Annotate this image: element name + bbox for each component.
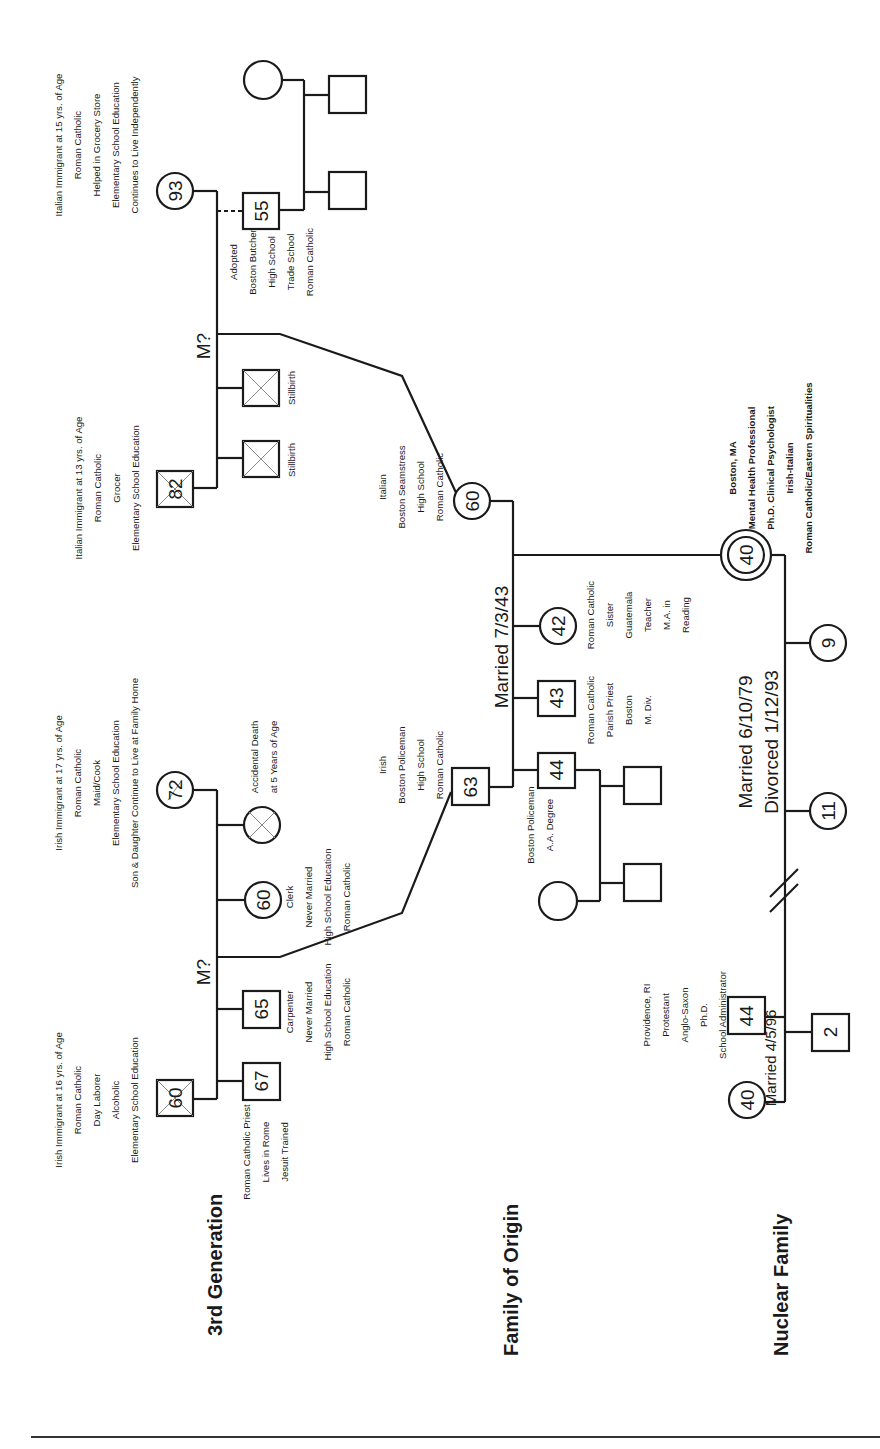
svg-text:Roman Catholic: Roman Catholic bbox=[341, 978, 352, 1046]
svg-text:Reading: Reading bbox=[680, 597, 691, 633]
uncle-priest-note: Roman Catholic Priest bbox=[241, 1104, 252, 1200]
svg-text:Roman Catholic: Roman Catholic bbox=[92, 454, 103, 522]
grandmother-irish-age: 72 bbox=[165, 779, 186, 800]
svg-text:Parish Priest: Parish Priest bbox=[604, 682, 615, 737]
svg-text:Day Laborer: Day Laborer bbox=[91, 1073, 102, 1127]
grandfather-irish-age: 60 bbox=[165, 1087, 186, 1108]
ex-husband-note: Providence, RI bbox=[641, 984, 652, 1047]
svg-text:Boston Seamstress: Boston Seamstress bbox=[396, 445, 407, 528]
svg-text:Roman Catholic: Roman Catholic bbox=[72, 749, 83, 817]
section-label-family-of-origin: Family of Origin bbox=[500, 1204, 522, 1356]
svg-text:Elementary School Education: Elementary School Education bbox=[110, 82, 121, 208]
client-note: Boston, MA bbox=[727, 441, 738, 494]
svg-text:Elementary School Education: Elementary School Education bbox=[129, 1037, 140, 1163]
svg-text:Guatemala: Guatemala bbox=[623, 591, 634, 639]
child-11-age: 11 bbox=[818, 801, 839, 821]
svg-text:M. Div.: M. Div. bbox=[642, 695, 653, 724]
svg-text:at 5 Years of Age: at 5 Years of Age bbox=[268, 721, 279, 794]
grandfather-italian-age: 82 bbox=[165, 478, 186, 499]
svg-text:Roman Catholic: Roman Catholic bbox=[304, 228, 315, 296]
svg-text:Irish-Italian: Irish-Italian bbox=[784, 442, 795, 493]
svg-text:Anglo-Saxon: Anglo-Saxon bbox=[679, 988, 690, 1043]
nuclear-family: 9 11 44 40 2 Married 6/10/79 Divorced 1/… bbox=[641, 555, 849, 1118]
brother-spouse-circle bbox=[539, 882, 577, 920]
svg-text:Teacher: Teacher bbox=[642, 597, 653, 632]
svg-text:Helped in Grocery Store: Helped in Grocery Store bbox=[91, 94, 102, 197]
aunt-note: Clerk bbox=[284, 886, 295, 909]
svg-text:Elementary School Education: Elementary School Education bbox=[110, 720, 121, 846]
svg-text:Jesuit Trained: Jesuit Trained bbox=[279, 1122, 290, 1182]
svg-text:Roman Catholic: Roman Catholic bbox=[72, 1066, 83, 1134]
svg-text:High School: High School bbox=[266, 236, 277, 288]
brother-priest-age: 43 bbox=[546, 687, 567, 708]
nephew-square bbox=[624, 864, 661, 901]
svg-text:Boston Butcher: Boston Butcher bbox=[247, 228, 258, 294]
svg-text:Grocer: Grocer bbox=[111, 473, 122, 503]
ex-husband-age: 44 bbox=[736, 1005, 757, 1027]
mother-note: Italian bbox=[377, 474, 388, 500]
uncle-priest-age: 67 bbox=[251, 1070, 272, 1091]
grandmother-italian-age: 93 bbox=[165, 180, 186, 201]
svg-text:A.A. Degree: A.A. Degree bbox=[544, 799, 555, 851]
adopted-son-child-square bbox=[329, 172, 366, 209]
sister-note: Roman Catholic bbox=[585, 581, 596, 649]
child-9-age: 9 bbox=[818, 638, 839, 649]
father-note: Irish bbox=[377, 756, 388, 774]
adopted-son-note: Adopted bbox=[228, 244, 239, 280]
svg-text:Lives in Rome: Lives in Rome bbox=[260, 1122, 271, 1183]
adopted-son-spouse-circle bbox=[244, 61, 282, 99]
uncle-carpenter-age: 65 bbox=[251, 998, 272, 1019]
svg-text:Maid/Cook: Maid/Cook bbox=[91, 760, 102, 806]
nephew-square bbox=[624, 767, 661, 804]
grandmother-italian-note: Italian Immigrant at 15 yrs. of Age bbox=[53, 74, 64, 217]
svg-text:Never Married: Never Married bbox=[303, 867, 314, 928]
mother-age: 60 bbox=[462, 490, 483, 511]
svg-text:Son & Daughter Continue to Liv: Son & Daughter Continue to Live at Famil… bbox=[129, 678, 140, 888]
svg-text:Roman Catholic: Roman Catholic bbox=[72, 111, 83, 179]
parents-marriage-label: Married 7/3/43 bbox=[491, 586, 512, 709]
svg-text:Sister: Sister bbox=[604, 602, 615, 627]
adopted-son-child-square bbox=[329, 76, 366, 113]
section-label-nuclear-family: Nuclear Family bbox=[770, 1213, 792, 1356]
svg-text:High School Education: High School Education bbox=[322, 963, 333, 1060]
stillbirth-label: Stillbirth bbox=[286, 443, 297, 477]
svg-text:Boston Policeman: Boston Policeman bbox=[396, 726, 407, 803]
father-age: 63 bbox=[460, 776, 481, 797]
svg-text:Roman Catholic: Roman Catholic bbox=[434, 453, 445, 521]
second-spouse-age: 40 bbox=[737, 1089, 758, 1110]
svg-text:Never Married: Never Married bbox=[303, 982, 314, 1043]
aunt-age: 60 bbox=[253, 889, 274, 910]
svg-text:Protestant: Protestant bbox=[660, 993, 671, 1037]
grandmother-irish-note: Irish Immigrant at 17 yrs. of Age bbox=[53, 715, 64, 850]
svg-text:Trade School: Trade School bbox=[285, 234, 296, 291]
uncle-carpenter-note: Carpenter bbox=[284, 990, 295, 1033]
first-marriage-label: Married 6/10/79 bbox=[735, 675, 756, 808]
adopted-son-age: 55 bbox=[251, 200, 272, 221]
child-2-age: 2 bbox=[820, 1027, 841, 1038]
svg-text:High School: High School bbox=[415, 461, 426, 513]
client-age: 40 bbox=[736, 544, 757, 565]
svg-text:Roman Catholic/Eastern Spiritu: Roman Catholic/Eastern Spiritualities bbox=[803, 382, 814, 553]
divorce-label: Divorced 1/12/93 bbox=[761, 670, 782, 814]
svg-text:Continues to Live Independentl: Continues to Live Independently bbox=[129, 76, 140, 213]
brother-policeman-note: Boston Policeman bbox=[525, 786, 536, 863]
genogram-diagram: 93 82 55 M? Italian Immigrant at 15 yrs.… bbox=[0, 0, 880, 1449]
deceased-child-note: Accidental Death bbox=[249, 721, 260, 794]
svg-text:Elementary School Education: Elementary School Education bbox=[130, 425, 141, 551]
svg-text:Alcoholic: Alcoholic bbox=[110, 1081, 121, 1120]
irish-marriage-label: M? bbox=[193, 959, 214, 985]
svg-text:Mental Health Professional: Mental Health Professional bbox=[746, 407, 757, 530]
italian-marriage-label: M? bbox=[193, 333, 214, 359]
section-label-3rd-generation: 3rd Generation bbox=[204, 1194, 226, 1336]
svg-text:High School Education: High School Education bbox=[322, 848, 333, 945]
grandfather-irish-note: Irish Immigrant at 16 yrs. of Age bbox=[53, 1032, 64, 1167]
svg-text:M.A. in: M.A. in bbox=[661, 600, 672, 630]
irish-grandparents-family: 72 60 65 67 60 M? Irish Immigrant at 17 … bbox=[53, 678, 451, 1200]
svg-text:Ph.D.: Ph.D. bbox=[698, 1003, 709, 1027]
svg-text:Boston: Boston bbox=[623, 695, 634, 725]
second-marriage-label: Married 4/5/96 bbox=[762, 1010, 779, 1107]
brother-priest-note: Roman Catholic bbox=[585, 676, 596, 744]
svg-text:Ph.D. Clinical Psychologist: Ph.D. Clinical Psychologist bbox=[765, 405, 776, 529]
svg-text:High School: High School bbox=[415, 739, 426, 791]
sister-age: 42 bbox=[548, 615, 569, 636]
